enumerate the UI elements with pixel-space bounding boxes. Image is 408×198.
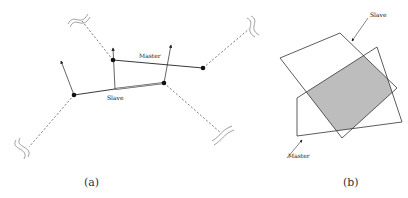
master-label: Master xyxy=(139,52,161,59)
nodes xyxy=(72,58,206,98)
master-node xyxy=(111,58,116,63)
slave-pointer-arrow xyxy=(352,18,368,41)
dashed-links xyxy=(29,21,249,147)
squiggle-icon xyxy=(15,138,29,159)
dashed-link xyxy=(164,83,221,133)
master-segment xyxy=(113,60,203,68)
master-node xyxy=(201,66,206,71)
normal-arrow xyxy=(61,61,74,95)
master-label-b: Master xyxy=(288,152,310,159)
caption-a: (a) xyxy=(84,176,99,189)
dashed-link xyxy=(29,95,74,147)
normal-arrow xyxy=(164,45,171,83)
squiggle-icon xyxy=(247,16,259,37)
slave-segment-contact-highlight xyxy=(115,83,164,89)
dashed-link xyxy=(82,21,113,60)
slave-node xyxy=(162,81,167,86)
squiggle-icon xyxy=(212,126,234,145)
slave-label: Slave xyxy=(107,94,124,101)
normal-arrow xyxy=(113,48,115,89)
caption-b: (b) xyxy=(343,176,359,189)
panel-a: Master Slave (a) xyxy=(15,14,259,189)
dashed-link xyxy=(203,29,249,68)
overlap-region xyxy=(297,47,402,136)
figure: Master Slave (a) Slave Master (b) xyxy=(0,0,408,198)
slave-label-b: Slave xyxy=(370,11,387,18)
squiggle-icon xyxy=(68,14,90,27)
slave-node xyxy=(72,93,77,98)
panel-b: Slave Master (b) xyxy=(280,11,402,189)
